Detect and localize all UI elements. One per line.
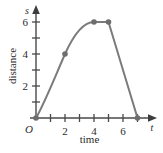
y-axis-variable-label: s [25,5,29,16]
x-axis-variable-label: t [151,122,154,133]
data-point-5-6 [106,19,112,25]
y-tick-label-2: 2 [23,80,29,92]
data-point-0-0 [33,115,39,121]
y-tick-label-6: 6 [23,16,29,28]
y-axis-title: distance [6,30,18,102]
data-point-2-4 [62,51,68,57]
data-point-7-0 [135,115,141,121]
distance-curve [36,22,138,118]
y-tick-label-4: 4 [23,48,29,60]
distance-time-graph: 6 4 2 2 4 6 O s t time distance [0,0,163,153]
x-axis-title: time [0,133,163,145]
plot-area: 6 4 2 2 4 6 O s t [0,0,163,153]
y-axis-arrow-icon [32,5,40,14]
x-axis-arrow-icon [148,114,157,122]
data-point-4-6 [91,19,97,25]
